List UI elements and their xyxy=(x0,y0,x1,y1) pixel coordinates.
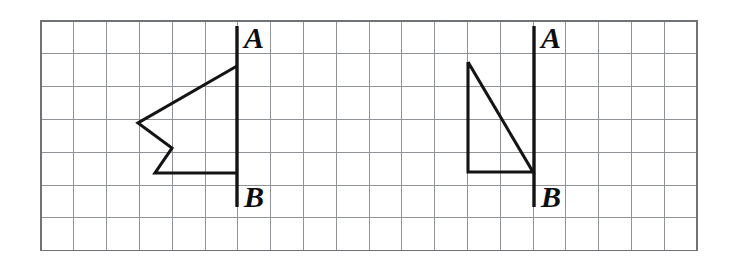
left-label-a: A xyxy=(242,21,264,54)
right-label-b: B xyxy=(540,180,561,213)
grid-figure-svg: A B A B xyxy=(0,0,729,268)
graph-paper-grid xyxy=(41,21,697,251)
right-label-a: A xyxy=(539,21,561,54)
page-background xyxy=(0,0,729,268)
left-label-b: B xyxy=(243,180,264,213)
worksheet-canvas: A B A B xyxy=(0,0,729,268)
